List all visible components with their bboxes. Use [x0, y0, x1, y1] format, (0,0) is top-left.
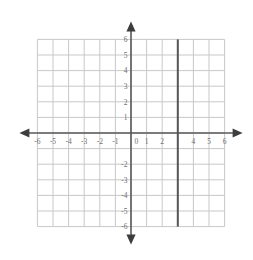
- y-axis-tick-label: 3: [124, 82, 128, 91]
- x-axis-tick-label: 1: [145, 137, 149, 146]
- y-axis-tick-label: -6: [121, 222, 127, 231]
- y-axis-tick-label: 6: [124, 35, 128, 44]
- y-axis-tick-label: 5: [124, 51, 128, 60]
- x-axis-tick-label: 4: [192, 137, 196, 146]
- x-axis-tick-label: 6: [223, 137, 227, 146]
- x-axis-tick-label: -6: [34, 137, 40, 146]
- x-axis-tick-label: -4: [65, 137, 71, 146]
- y-axis-tick-label: -3: [121, 176, 127, 185]
- y-axis-tick-label: -4: [121, 191, 127, 200]
- y-axis-tick-label: 4: [124, 66, 128, 75]
- coordinate-plane-canvas: -6-5-4-3-2-1012456 654321-2-3-4-5-6: [0, 0, 253, 260]
- x-axis-tick-label: -5: [50, 137, 56, 146]
- coordinate-plane-figure: -6-5-4-3-2-1012456 654321-2-3-4-5-6: [0, 0, 253, 260]
- x-axis-tick-label: 5: [207, 137, 211, 146]
- x-axis-tick-label: -2: [97, 137, 103, 146]
- x-axis-tick-label: 0: [135, 137, 139, 146]
- y-axis-tick-label: -2: [121, 160, 127, 169]
- y-axis-tick-label: -5: [121, 207, 127, 216]
- y-axis-tick-label: 1: [124, 113, 128, 122]
- x-axis-tick-label: 2: [160, 137, 164, 146]
- x-axis-tick-label: -1: [112, 137, 118, 146]
- x-axis-tick-label: -3: [81, 137, 87, 146]
- y-axis-tick-label: 2: [124, 98, 128, 107]
